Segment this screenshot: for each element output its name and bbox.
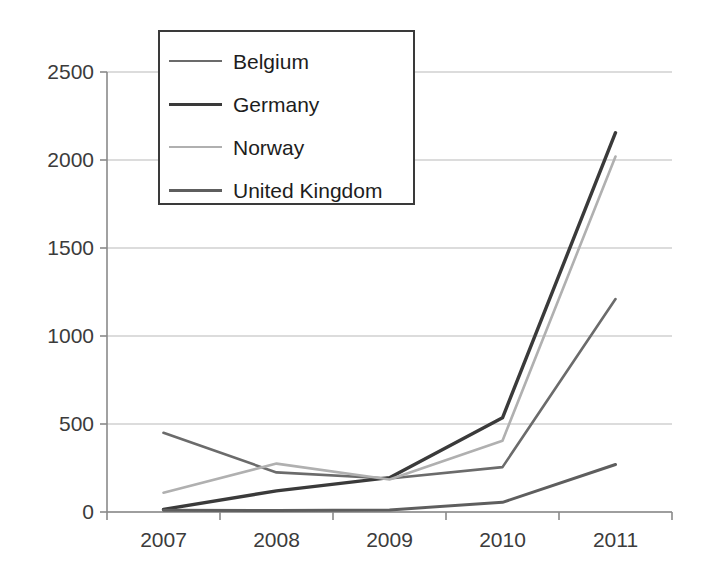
legend-swatch-belgium xyxy=(169,60,222,62)
y-tick-label-2000: 2000 xyxy=(0,148,94,172)
x-tick-label-2010: 2010 xyxy=(479,528,526,552)
line-chart: 05001000150020002500 2007200820092010201… xyxy=(0,0,703,581)
legend-label-united-kingdom: United Kingdom xyxy=(233,180,382,201)
legend-item-belgium: Belgium xyxy=(169,46,309,76)
legend-item-norway: Norway xyxy=(169,132,304,162)
x-tick-label-2007: 2007 xyxy=(140,528,187,552)
series-line-norway xyxy=(164,156,616,492)
x-tick-label-2011: 2011 xyxy=(593,528,638,552)
legend-item-united-kingdom: United Kingdom xyxy=(169,175,382,205)
chart-legend: Belgium Germany Norway United Kingdom xyxy=(158,30,415,205)
legend-label-belgium: Belgium xyxy=(233,51,309,72)
y-tick-label-500: 500 xyxy=(0,412,94,436)
y-tick-label-1500: 1500 xyxy=(0,236,94,260)
legend-swatch-germany xyxy=(169,103,222,106)
x-tick-label-2009: 2009 xyxy=(366,528,413,552)
legend-item-germany: Germany xyxy=(169,89,319,119)
legend-label-germany: Germany xyxy=(233,94,319,115)
series-line-united-kingdom xyxy=(164,464,616,510)
y-tick-label-1000: 1000 xyxy=(0,324,94,348)
x-tick-label-2008: 2008 xyxy=(253,528,300,552)
legend-label-norway: Norway xyxy=(233,137,304,158)
y-tick-label-2500: 2500 xyxy=(0,60,94,84)
y-tick-label-0: 0 xyxy=(0,500,94,524)
legend-swatch-united-kingdom xyxy=(169,189,222,192)
legend-swatch-norway xyxy=(169,146,222,148)
